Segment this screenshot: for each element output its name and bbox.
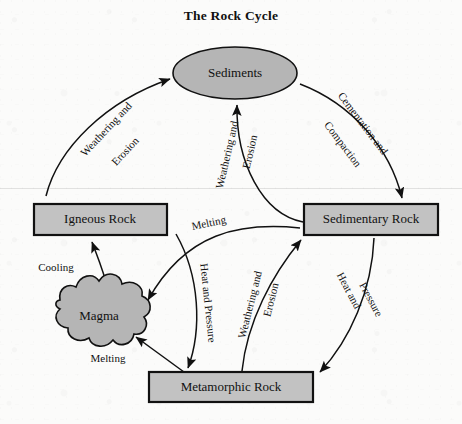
node-sediments-label: Sediments: [208, 65, 262, 80]
node-sedimentary-rock[interactable]: Sedimentary Rock: [304, 204, 438, 235]
node-metamorphic-rock-label: Metamorphic Rock: [181, 379, 282, 394]
edge-label-line: Weathering and: [235, 269, 263, 339]
edge-label-melting-upper: Melting: [190, 213, 227, 232]
edge-label-line: Erosion: [109, 134, 141, 168]
node-igneous-rock[interactable]: Igneous Rock: [34, 204, 167, 235]
edge-label-heat-pressure-left: Heat and Pressure: [198, 263, 218, 343]
edge-label-line: Melting: [190, 213, 227, 232]
node-magma-label: Magma: [79, 308, 119, 323]
arrow-igneous-to-sediments: [46, 79, 170, 196]
edge-label-melting-lower: Melting: [91, 352, 126, 364]
arrow-metamorphic-to-magma: [136, 337, 184, 372]
node-igneous-rock-label: Igneous Rock: [64, 211, 136, 226]
edge-label-heat-pressure-right: Heat and Pressure: [335, 270, 386, 319]
arrow-sedimentary-to-metamorphic: [320, 238, 374, 372]
diagram-canvas: Sediments Igneous Rock Sedimentary Rock …: [0, 0, 462, 424]
edge-label-line: Compaction: [322, 119, 364, 170]
node-sediments[interactable]: Sediments: [173, 47, 297, 99]
edge-label-line: Heat and Pressure: [198, 263, 218, 343]
edge-label-cooling: Cooling: [38, 261, 74, 273]
node-sedimentary-rock-label: Sedimentary Rock: [323, 211, 420, 226]
edge-label-line: Heat and: [335, 270, 364, 311]
edge-label-line: Melting: [91, 352, 126, 364]
edge-label-cementation-compaction: Cementation and Compaction: [322, 90, 391, 170]
rock-cycle-diagram: The Rock Cycle: [0, 0, 462, 424]
edge-label-line: Cooling: [38, 261, 74, 273]
node-metamorphic-rock[interactable]: Metamorphic Rock: [149, 372, 313, 402]
edge-label-line: Erosion: [261, 281, 281, 318]
node-magma[interactable]: Magma: [56, 274, 150, 346]
edge-label-line: Weathering and: [213, 119, 240, 189]
edge-label-line: Erosion: [240, 133, 260, 170]
